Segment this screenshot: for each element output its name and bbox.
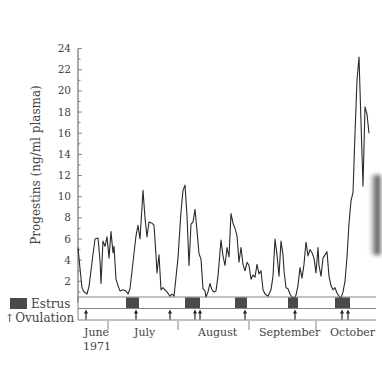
estrus-bar (335, 298, 350, 309)
month-june: June (84, 326, 109, 339)
ovulation-arrow-icon (243, 310, 247, 320)
estrus-swatch-icon (10, 298, 27, 309)
y-tick-label: 2 (64, 275, 71, 287)
page-edge-shadow (370, 175, 382, 255)
y-tick-label: 4 (64, 254, 71, 266)
estrus-bar (185, 298, 200, 309)
y-tick-label: 8 (64, 211, 71, 223)
y-tick-label: 22 (58, 63, 71, 75)
y-tick-label: 10 (58, 190, 71, 202)
month-august: August (198, 326, 237, 339)
ovulation-arrow-icon (340, 310, 344, 320)
y-axis-label: Progestins (ng/ml plasma) (29, 85, 43, 245)
ovulation-arrow-icon (293, 310, 297, 320)
y-axis: 24681012141618202224 (58, 42, 82, 302)
y-tick-label: 16 (58, 127, 72, 139)
y-tick-label: 12 (58, 169, 71, 181)
estrus-bar (235, 298, 247, 309)
ovulation-arrow-icon (346, 310, 350, 320)
month-september: September (259, 326, 320, 339)
month-october: October (330, 326, 375, 339)
estrus-bar (288, 298, 298, 309)
legend-estrus: Estrus (10, 297, 70, 311)
legend-ovulation-label: Ovulation (15, 311, 74, 325)
month-july: July (134, 326, 155, 339)
y-tick-label: 24 (58, 42, 72, 54)
ovulation-arrow-icon (134, 310, 138, 320)
ovulation-arrow-icon (193, 310, 197, 320)
y-tick-label: 6 (64, 233, 71, 245)
ovulation-arrow-icon (198, 310, 202, 320)
y-tick-label: 18 (58, 106, 71, 118)
ovulation-arrow-icon (168, 310, 172, 320)
y-tick-label: 14 (58, 148, 72, 160)
estrus-bar (126, 298, 139, 309)
progestin-line (78, 57, 369, 298)
year-label: 1971 (83, 340, 111, 353)
legend-estrus-label: Estrus (31, 297, 70, 311)
ovulation-arrow-icon: ↑ (5, 312, 14, 325)
legend-ovulation: ↑Ovulation (5, 311, 74, 325)
y-tick-label: 20 (58, 84, 71, 96)
ovulation-arrow-icon (84, 310, 88, 320)
